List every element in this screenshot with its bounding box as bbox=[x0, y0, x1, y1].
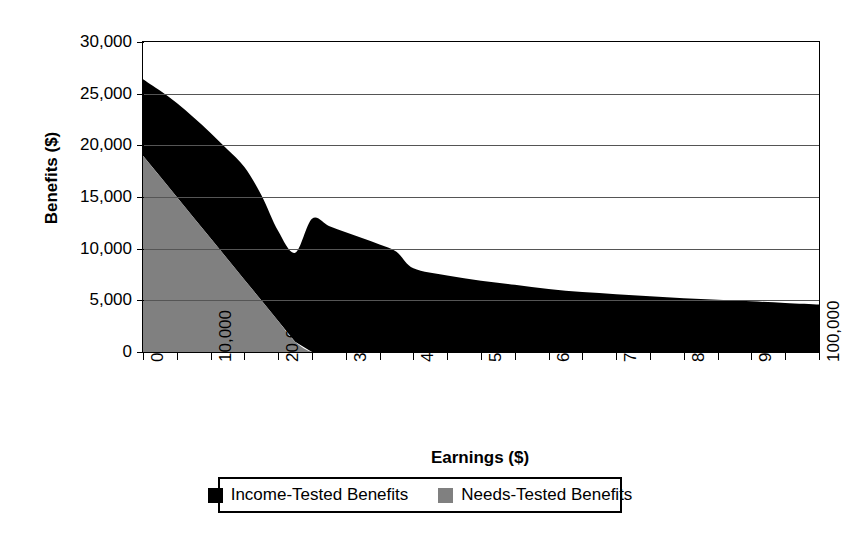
x-tick-65000 bbox=[582, 353, 583, 360]
legend-item-income-tested: Income-Tested Benefits bbox=[208, 486, 409, 504]
x-tick-30000 bbox=[346, 353, 347, 360]
x-tick-label-40000: 40,000 bbox=[419, 310, 436, 362]
x-tick-50000 bbox=[481, 353, 482, 360]
y-tick-label-20000: 20,000 bbox=[20, 136, 132, 153]
x-tick-label-0: 0 bbox=[149, 353, 166, 362]
x-tick-80000 bbox=[684, 353, 685, 360]
x-tick-90000 bbox=[751, 353, 752, 360]
x-tick-10000 bbox=[211, 353, 212, 360]
plot-inner bbox=[143, 42, 819, 352]
x-tick-85000 bbox=[718, 353, 719, 360]
x-tick-45000 bbox=[447, 353, 448, 360]
x-tick-15000 bbox=[244, 353, 245, 360]
gridline-y-25000 bbox=[143, 94, 819, 95]
gridline-y-15000 bbox=[143, 197, 819, 198]
x-tick-label-30000: 30,000 bbox=[352, 310, 369, 362]
y-tick-label-30000: 30,000 bbox=[20, 33, 132, 50]
x-tick-label-100000: 100,000 bbox=[825, 301, 842, 362]
y-tick-15000 bbox=[137, 197, 144, 198]
y-tick-30000 bbox=[137, 42, 144, 43]
x-tick-0 bbox=[143, 353, 144, 360]
y-tick-label-0: 0 bbox=[20, 343, 132, 360]
x-tick-35000 bbox=[380, 353, 381, 360]
x-tick-95000 bbox=[785, 353, 786, 360]
legend-swatch-income-tested-icon bbox=[208, 488, 223, 503]
y-axis-tick-labels: 30,00025,00020,00015,00010,0005,0000 bbox=[20, 41, 132, 351]
x-tick-75000 bbox=[650, 353, 651, 360]
x-tick-55000 bbox=[515, 353, 516, 360]
x-tick-label-90000: 90,000 bbox=[757, 310, 774, 362]
y-tick-label-5000: 5,000 bbox=[20, 291, 132, 308]
legend-swatch-needs-tested-icon bbox=[438, 488, 453, 503]
x-tick-label-20000: 20,000 bbox=[284, 310, 301, 362]
y-tick-20000 bbox=[137, 145, 144, 146]
x-tick-label-10000: 10,000 bbox=[217, 310, 234, 362]
y-tick-label-10000: 10,000 bbox=[20, 240, 132, 257]
x-tick-40000 bbox=[413, 353, 414, 360]
x-tick-25000 bbox=[312, 353, 313, 360]
x-tick-label-60000: 60,000 bbox=[555, 310, 572, 362]
x-tick-label-80000: 80,000 bbox=[690, 310, 707, 362]
y-tick-label-25000: 25,000 bbox=[20, 85, 132, 102]
x-tick-label-70000: 70,000 bbox=[622, 310, 639, 362]
x-tick-100000 bbox=[819, 353, 820, 360]
x-tick-label-50000: 50,000 bbox=[487, 310, 504, 362]
gridline-y-5000 bbox=[143, 300, 819, 301]
y-tick-label-15000: 15,000 bbox=[20, 188, 132, 205]
plot-area bbox=[142, 41, 820, 353]
x-tick-70000 bbox=[616, 353, 617, 360]
x-axis-title: Earnings ($) bbox=[142, 448, 818, 468]
legend-label-needs-tested: Needs-Tested Benefits bbox=[461, 486, 632, 504]
gridline-y-20000 bbox=[143, 145, 819, 146]
x-tick-20000 bbox=[278, 353, 279, 360]
legend-item-needs-tested: Needs-Tested Benefits bbox=[438, 486, 632, 504]
x-tick-60000 bbox=[549, 353, 550, 360]
gridline-y-10000 bbox=[143, 249, 819, 250]
y-tick-25000 bbox=[137, 94, 144, 95]
y-tick-5000 bbox=[137, 300, 144, 301]
x-tick-5000 bbox=[177, 353, 178, 360]
chart-figure: Benefits ($) 30,00025,00020,00015,00010,… bbox=[0, 0, 842, 543]
legend-label-income-tested: Income-Tested Benefits bbox=[231, 486, 409, 504]
y-tick-10000 bbox=[137, 249, 144, 250]
chart-legend: Income-Tested Benefits Needs-Tested Bene… bbox=[218, 477, 622, 513]
